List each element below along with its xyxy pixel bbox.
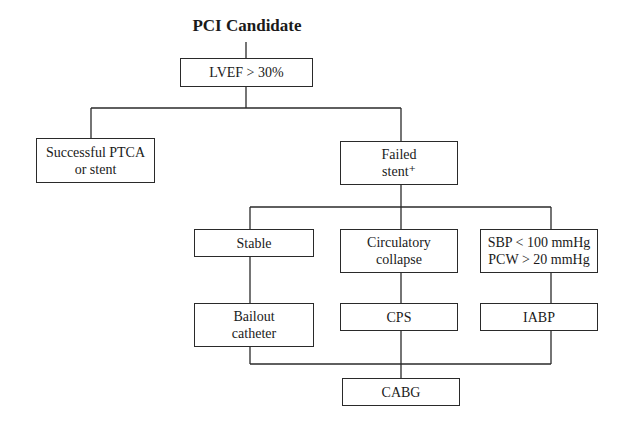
node-lvef: LVEF > 30%	[180, 58, 313, 87]
node-successful-ptca-label: Successful PTCA or stent	[46, 144, 145, 178]
node-stable-label: Stable	[237, 235, 272, 252]
node-stable: Stable	[194, 229, 314, 257]
connector-lines	[0, 0, 629, 430]
node-sbp-pcw: SBP < 100 mmHg PCW > 20 mmHg	[480, 229, 598, 273]
node-cabg: CABG	[342, 378, 460, 406]
node-failed-stent-label: Failed stent⁺	[382, 146, 417, 180]
node-failed-stent: Failed stent⁺	[340, 141, 458, 185]
node-cps-label: CPS	[387, 309, 412, 326]
node-lvef-label: LVEF > 30%	[209, 64, 283, 81]
node-bailout-catheter: Bailout catheter	[194, 303, 314, 347]
node-bailout-catheter-label: Bailout catheter	[232, 308, 276, 342]
node-cabg-label: CABG	[382, 384, 421, 401]
node-circulatory-collapse: Circulatory collapse	[340, 229, 458, 273]
node-sbp-pcw-label: SBP < 100 mmHg PCW > 20 mmHg	[488, 234, 591, 268]
diagram-title: PCI Candidate	[147, 16, 347, 36]
node-iabp: IABP	[480, 303, 598, 331]
node-iabp-label: IABP	[523, 309, 555, 326]
node-successful-ptca: Successful PTCA or stent	[36, 138, 155, 183]
node-cps: CPS	[340, 303, 458, 331]
node-circulatory-collapse-label: Circulatory collapse	[367, 234, 431, 268]
